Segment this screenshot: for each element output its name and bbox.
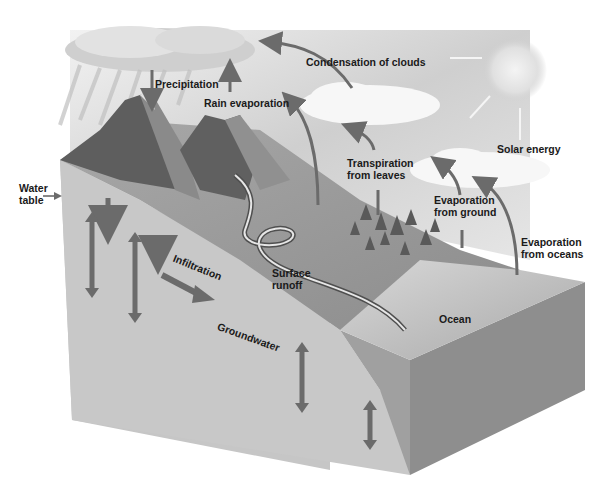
label-surface-runoff-line2: runoff — [272, 279, 311, 291]
label-evap-oceans-line2: from oceans — [521, 248, 583, 260]
label-evap-ground-line1: Evaporation — [434, 194, 496, 206]
label-evap-oceans-line1: Evaporation — [521, 236, 583, 248]
label-evaporation-ground: Evaporation from ground — [434, 194, 496, 218]
label-transpiration-line1: Transpiration — [347, 157, 414, 169]
label-transpiration: Transpiration from leaves — [347, 157, 414, 181]
label-surface-runoff: Surface runoff — [272, 267, 311, 291]
label-water-table-line1: Water — [19, 182, 48, 194]
label-evap-ground-line2: from ground — [434, 206, 496, 218]
label-surface-runoff-line1: Surface — [272, 267, 311, 279]
label-water-table-line2: table — [19, 194, 48, 206]
label-evaporation-oceans: Evaporation from oceans — [521, 236, 583, 260]
label-solar-energy: Solar energy — [497, 143, 561, 155]
sun-icon — [483, 38, 547, 102]
label-rain-evaporation: Rain evaporation — [204, 97, 289, 109]
label-transpiration-line2: from leaves — [347, 169, 414, 181]
water-cycle-diagram: Precipitation Rain evaporation Condensat… — [0, 0, 597, 493]
label-ocean: Ocean — [439, 313, 471, 325]
label-precipitation: Precipitation — [155, 78, 219, 90]
label-condensation: Condensation of clouds — [306, 56, 426, 68]
label-water-table: Water table — [19, 182, 48, 206]
diagram-illustration — [0, 0, 597, 493]
